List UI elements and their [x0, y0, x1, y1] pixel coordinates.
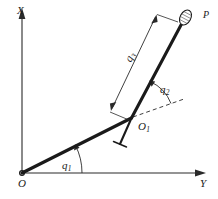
q1-angle-arc [76, 146, 83, 174]
y-axis-label: Y [200, 178, 206, 189]
q3-extension-line-top [157, 15, 178, 23]
q3-arrowhead-top [151, 15, 157, 24]
joint-o1-label: O1 [138, 121, 150, 134]
y-axis-arrowhead [195, 170, 206, 177]
q3-dimension-group [110, 15, 178, 121]
q2-base: q [160, 83, 166, 95]
q1-base: q [62, 159, 68, 171]
point-p-marker [177, 8, 194, 27]
q3-extension-line-bottom [110, 112, 129, 120]
q1-subscript: 1 [68, 164, 72, 173]
manipulator-diagram: X Y O P O1 q1 q2 q3 [0, 0, 218, 199]
q1-label: q1 [62, 160, 72, 173]
x-axis-label: X [17, 5, 24, 16]
joint-o1-subscript: 1 [146, 125, 150, 134]
q2-subscript: 2 [166, 88, 170, 97]
q2-label: q2 [160, 84, 170, 97]
link-2 [132, 25, 182, 118]
diagram-canvas [0, 0, 218, 199]
point-p-label: P [203, 10, 209, 20]
point-p-marker-group [177, 8, 194, 27]
link-1 [22, 118, 132, 173]
q3-arrowhead-bottom [110, 102, 116, 111]
joint-o1-base: O [138, 120, 146, 132]
origin-label: O [18, 178, 26, 189]
